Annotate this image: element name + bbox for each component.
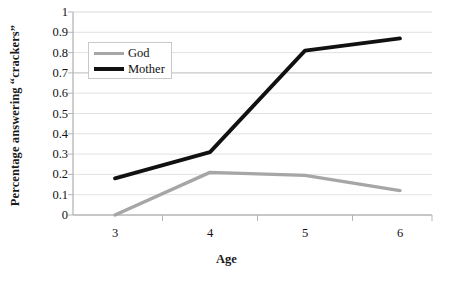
legend-label-mother: Mother [128,63,165,76]
y-tick-label: 0.3 [34,147,68,162]
legend-item-mother: Mother [94,61,165,77]
y-axis-title: Percentage answering “crackers” [2,0,30,230]
y-tick-label: 1 [34,5,68,20]
y-tick-label: 0.8 [34,45,68,60]
series-line-god [115,172,400,215]
y-tick-label: 0.2 [34,167,68,182]
y-tick-label: 0.1 [34,187,68,202]
x-axis-ticks [163,215,433,221]
legend-item-god: God [94,45,150,61]
legend-swatch-mother-icon [94,67,124,71]
y-tick-label: 0.9 [34,25,68,40]
y-axis-ticks [68,12,73,215]
y-axis-tick-labels: 0 0.1 0.2 0.3 0.4 0.5 0.6 0.7 0.8 0.9 1 [30,0,68,281]
y-tick-label: 0.4 [34,126,68,141]
x-tick-label: 6 [397,226,403,241]
chart-legend: God Mother [88,42,172,79]
y-tick-label: 0.5 [34,106,68,121]
legend-swatch-god-icon [94,52,124,55]
y-axis-title-text: Percentage answering “crackers” [9,24,24,205]
y-tick-label: 0 [34,208,68,223]
x-tick-label: 3 [112,226,118,241]
y-tick-label: 0.6 [34,86,68,101]
y-tick-label: 0.7 [34,65,68,80]
x-tick-label: 4 [207,226,213,241]
x-tick-label: 5 [302,226,308,241]
legend-label-god: God [128,47,150,60]
x-axis-title: Age [0,252,453,267]
line-chart: Percentage answering “crackers” 0 0.1 0.… [0,0,453,281]
